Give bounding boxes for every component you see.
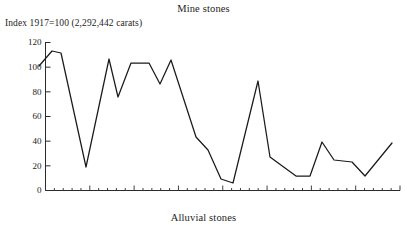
- y-axis-ticks: [46, 43, 51, 191]
- data-series-line: [39, 51, 392, 183]
- x-axis-ticks: [46, 186, 401, 191]
- y-axis: 020406080100120: [28, 37, 51, 195]
- chart-footer-label: Alluvial stones: [0, 212, 407, 223]
- y-axis-tick-labels: 020406080100120: [28, 37, 42, 195]
- y-axis-tick-label: 60: [33, 111, 43, 121]
- x-axis: [46, 186, 401, 191]
- y-axis-tick-label: 40: [33, 136, 43, 146]
- y-axis-tick-label: 0: [37, 185, 42, 195]
- chart-plot-area: 020406080100120: [0, 0, 407, 228]
- y-axis-tick-label: 120: [28, 37, 42, 47]
- y-axis-tick-label: 20: [33, 161, 43, 171]
- y-axis-tick-label: 80: [33, 87, 43, 97]
- y-axis-tick-label: 100: [28, 62, 42, 72]
- chart-figure: Mine stones Index 1917=100 (2,292,442 ca…: [0, 0, 407, 228]
